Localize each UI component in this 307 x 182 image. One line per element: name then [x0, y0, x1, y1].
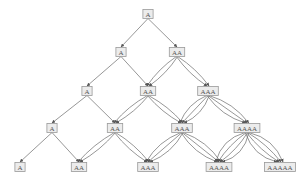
edge-arrow [149, 96, 183, 124]
edge-arrow [20, 133, 52, 163]
edge-arrow [114, 133, 147, 163]
edge-arrow [87, 57, 121, 87]
node-label: AAA [140, 164, 155, 172]
edge-arrow [209, 96, 249, 124]
edge-arrow [150, 133, 183, 163]
multiway-graph: AAAAAAAAAAAAAAAAAAAAAAAAAAAAAAAAAAA [0, 0, 307, 182]
edge-arrow [121, 57, 148, 87]
edge-arrow [183, 133, 221, 163]
node-label: AAAAA [267, 164, 292, 172]
edge-arrow [182, 96, 208, 124]
node-label: A [145, 11, 150, 19]
node-label: A [49, 125, 54, 133]
edge-arrow [87, 96, 115, 124]
edge-arrow [178, 57, 209, 87]
node-aaaaa: AAAAA [265, 163, 296, 172]
node-aa: AA [107, 124, 122, 133]
edge-arrow [207, 96, 245, 124]
node-a: A [82, 87, 92, 96]
edge-arrow [116, 96, 149, 124]
node-a: A [143, 10, 153, 19]
node-label: A [118, 49, 123, 57]
edge-arrow [147, 96, 181, 124]
edge-arrow [80, 133, 116, 163]
node-aaaa: AAAA [206, 163, 232, 172]
node-label: AA [110, 125, 120, 133]
node-label: AAAA [209, 164, 229, 172]
node-a: A [47, 124, 57, 133]
node-label: AA [143, 88, 153, 96]
edge-arrow [148, 19, 177, 48]
node-label: AAAA [237, 125, 257, 133]
edge-arrow [121, 19, 148, 48]
edge-arrow [116, 133, 149, 163]
node-aaa: AAA [172, 124, 193, 133]
edge-arrow [114, 96, 147, 124]
edge-arrow [148, 133, 182, 163]
edge-arrow [180, 96, 207, 124]
edge-arrow [181, 133, 217, 163]
edge-arrow [52, 133, 79, 163]
node-label: A [17, 164, 22, 172]
node-aaa: AAA [198, 87, 219, 96]
node-aa: AA [71, 163, 86, 172]
edge-arrow [146, 133, 181, 163]
node-aaa: AAA [138, 163, 159, 172]
node-label: AAA [174, 125, 189, 133]
node-label: AA [74, 164, 84, 172]
node-aaaa: AAAA [234, 124, 260, 133]
node-aa: AA [169, 48, 184, 57]
edge-arrow [182, 133, 219, 163]
edge-arrow [176, 57, 207, 87]
node-label: AAA [200, 88, 215, 96]
node-label: AA [172, 49, 182, 57]
node-aa: AA [140, 87, 155, 96]
node-a: A [116, 48, 126, 57]
edge-arrow [52, 96, 87, 124]
edge-arrow [147, 57, 176, 87]
edge-arrow [78, 133, 114, 163]
edge-arrow [208, 96, 247, 124]
node-label: A [84, 88, 89, 96]
edge-arrow [149, 57, 178, 87]
node-a: A [15, 163, 25, 172]
